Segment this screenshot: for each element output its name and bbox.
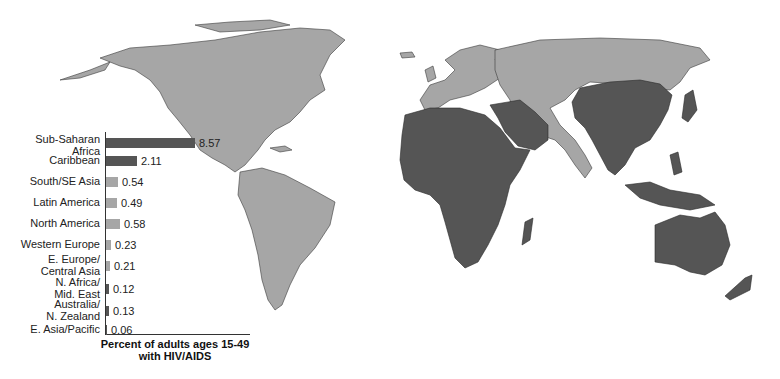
- map-madagascar: [522, 218, 533, 245]
- map-australia: [655, 212, 730, 275]
- map-philippines: [670, 152, 682, 175]
- map-new-zealand: [725, 275, 752, 300]
- map-iceland: [400, 52, 415, 58]
- map-japan: [682, 90, 697, 122]
- world-map: [0, 0, 780, 379]
- map-indonesia: [625, 182, 715, 210]
- map-south-america: [238, 168, 335, 310]
- map-alaska-chain: [60, 62, 110, 80]
- map-uk: [425, 66, 436, 82]
- map-north-america: [100, 28, 345, 172]
- map-caribbean: [270, 146, 292, 152]
